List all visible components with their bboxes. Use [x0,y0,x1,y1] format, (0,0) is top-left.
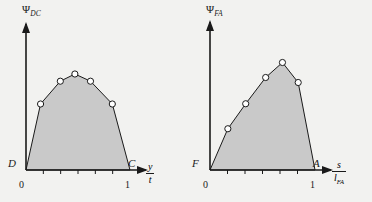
svg-left-y-axis-arrowhead [22,22,30,33]
right-plot-x-axis-denominator-subscript: FA [337,178,344,185]
left-plot-canvas [0,0,186,202]
right-plot-xtick-0: 0 [203,180,208,190]
figure-root: ΨDC D C 0 1 y t ΨFA F A 0 1 s lFA [0,0,372,202]
left-plot-end-label: C [128,158,135,169]
right-plot-xtick-1: 1 [310,180,315,190]
left-plot-y-axis-subscript: DC [30,9,41,18]
right-plot-origin-label: F [192,158,199,169]
left-plot-x-axis-numerator: y [146,162,154,173]
svg-left-data-point-marker [109,101,115,107]
right-plot-panel: ΨFA F A 0 1 s lFA [186,0,372,202]
right-plot-end-label: A [313,158,320,169]
svg-right-data-point-marker [295,79,301,85]
right-plot-x-axis-denominator-group: lFA [332,173,346,186]
left-plot-xtick-1: 1 [125,180,130,190]
left-plot-xtick-0: 0 [19,180,24,190]
left-plot-panel: ΨDC D C 0 1 y t [0,0,186,202]
svg-right-y-axis-arrowhead [206,20,214,31]
right-plot-y-axis-label: ΨFA [206,4,223,18]
left-plot-x-axis-denominator: t [146,175,154,186]
left-plot-x-axis-label: y t [146,162,154,185]
svg-left-data-point-marker [87,78,93,84]
svg-left-area-curve [26,74,130,170]
right-plot-y-axis-symbol: Ψ [206,3,214,15]
left-plot-origin-label: D [8,158,16,169]
right-plot-x-axis-label: s lFA [332,160,346,185]
svg-right-data-point-marker [225,126,231,132]
svg-right-data-point-marker [279,59,285,65]
left-plot-y-axis-symbol: Ψ [22,3,30,15]
right-plot-y-axis-subscript: FA [214,9,223,18]
svg-right-data-point-marker [243,101,249,107]
svg-left-data-point-marker [72,71,78,77]
svg-left-data-point-marker [37,101,43,107]
right-plot-x-axis-numerator: s [332,160,346,171]
svg-left-data-point-marker [57,78,63,84]
svg-right-data-point-marker [263,74,269,80]
left-plot-y-axis-label: ΨDC [22,4,41,18]
